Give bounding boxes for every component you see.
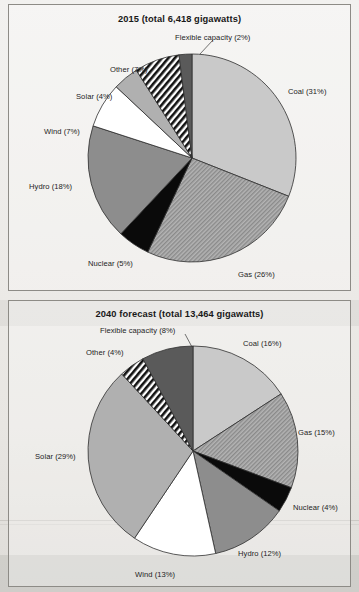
slice-label-other: Other (4%) — [86, 348, 124, 357]
slice-label-gas: Gas (15%) — [298, 428, 335, 437]
label-leader-line — [185, 334, 192, 347]
slice-label-coal: Coal (16%) — [243, 339, 281, 348]
slice-label-wind: Wind (13%) — [135, 570, 175, 579]
slice-label-flexible-capacity: Flexible capacity (8%) — [100, 326, 175, 335]
slice-label-solar: Solar (29%) — [35, 452, 76, 461]
slice-label-hydro: Hydro (12%) — [238, 549, 281, 558]
slice-label-nuclear: Nuclear (4%) — [293, 503, 338, 512]
